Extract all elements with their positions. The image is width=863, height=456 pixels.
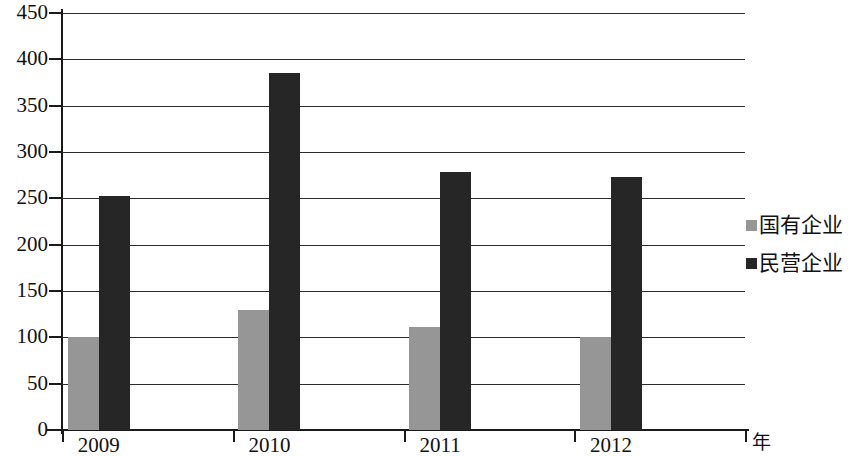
y-axis-tick-label: 450: [2, 2, 48, 23]
gridline: [62, 13, 745, 14]
x-axis-tick-label: 2009: [46, 434, 152, 456]
legend-swatch-icon-state-owned: [746, 220, 757, 231]
legend-item-state-owned: 国有企业: [746, 206, 863, 244]
y-axis-tick-label: 300: [2, 141, 48, 162]
y-axis-tick-label: 50: [2, 373, 48, 394]
x-axis-tick-label: 2010: [216, 434, 322, 456]
y-axis-tick-label: 400: [2, 48, 48, 69]
gridline: [62, 106, 745, 107]
y-axis-tick-label: 200: [2, 234, 48, 255]
bar-2011-private: [440, 172, 471, 430]
legend-swatch-icon-private: [746, 258, 757, 269]
bar-chart: 050100150200250300350400450 200920102011…: [0, 0, 863, 456]
bar-2011-state-owned: [409, 327, 440, 430]
gridline: [62, 59, 745, 60]
legend-label-private: 民营企业: [759, 251, 843, 275]
gridline: [62, 245, 745, 246]
legend: 国有企业 民营企业: [746, 206, 863, 282]
gridline: [62, 198, 745, 199]
x-axis-tick-label: 2011: [387, 434, 493, 456]
y-axis-tick-labels: 050100150200250300350400450: [0, 0, 48, 456]
y-axis-tick-label: 350: [2, 95, 48, 116]
bar-2010-state-owned: [238, 310, 269, 430]
legend-item-private: 民营企业: [746, 244, 863, 282]
x-axis-tick-label: 2012: [558, 434, 664, 456]
x-axis-unit-label: 年: [752, 432, 771, 454]
bar-2009-state-owned: [68, 337, 99, 430]
x-axis-tick: [745, 430, 747, 442]
gridline: [62, 291, 745, 292]
y-axis-tick-label: 150: [2, 280, 48, 301]
y-axis-tick-label: 0: [2, 419, 48, 440]
bar-2010-private: [269, 73, 300, 430]
y-axis-tick-label: 100: [2, 326, 48, 347]
gridline: [62, 337, 745, 338]
bar-2012-state-owned: [580, 337, 611, 430]
y-axis-tick-label: 250: [2, 187, 48, 208]
gridline: [62, 152, 745, 153]
legend-label-state-owned: 国有企业: [759, 213, 843, 237]
gridline: [62, 384, 745, 385]
bar-2012-private: [611, 177, 642, 430]
plot-area: [62, 13, 745, 430]
bar-2009-private: [99, 196, 130, 430]
